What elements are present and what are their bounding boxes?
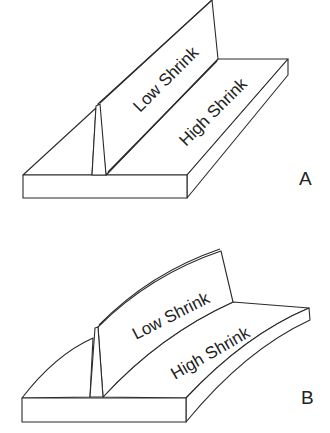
figure-b: Low Shrink High Shrink B: [22, 249, 314, 422]
figure-b-flange-front: [22, 398, 186, 422]
figure-b-tag: B: [301, 387, 314, 408]
shrink-diagram: Low Shrink High Shrink A Low Shrink High…: [0, 0, 330, 433]
figure-a-tag: A: [299, 168, 312, 189]
figure-b-left-flange: [22, 338, 93, 398]
figure-a-flange-front: [23, 175, 187, 198]
figure-a: Low Shrink High Shrink A: [23, 0, 312, 198]
figure-a-left-flange: [23, 108, 96, 175]
